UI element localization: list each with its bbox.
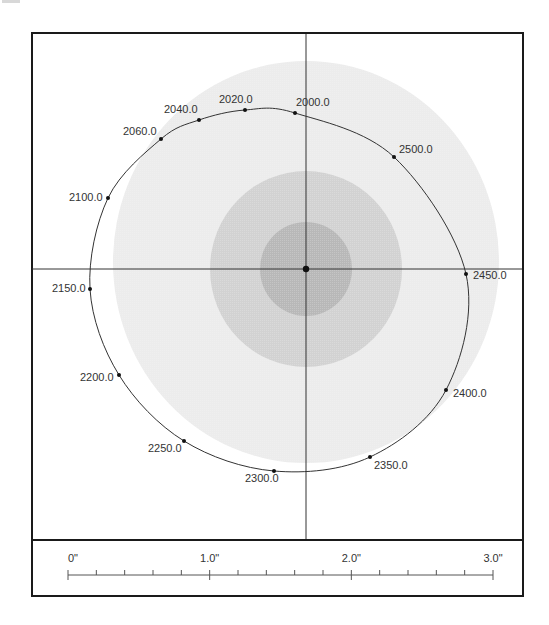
depth-marker-dot [159, 137, 163, 141]
depth-label: 2200.0 [80, 371, 114, 383]
depth-label: 2040.0 [164, 103, 198, 115]
depth-label: 2400.0 [453, 387, 487, 399]
traveling-cylinder-chart: 2000.02020.02040.02060.02100.02150.02200… [0, 0, 549, 625]
depth-label: 2060.0 [123, 125, 157, 137]
depth-label: 2020.0 [219, 93, 253, 105]
reference-well-center-dot [303, 266, 309, 272]
scale-frame [32, 540, 523, 596]
depth-marker-dot [88, 287, 92, 291]
scale-label: 2.0" [342, 552, 361, 564]
depth-marker: 2250.0 [148, 439, 186, 454]
depth-marker-dot [368, 455, 372, 459]
depth-marker: 2300.0 [245, 469, 279, 484]
scale-label: 3.0" [483, 552, 502, 564]
depth-marker-dot [464, 272, 468, 276]
depth-marker-dot [293, 111, 297, 115]
scale-label: 1.0" [200, 552, 219, 564]
depth-label: 2150.0 [52, 282, 86, 294]
depth-label: 2450.0 [473, 269, 507, 281]
depth-marker-dot [392, 155, 396, 159]
depth-label: 2350.0 [374, 459, 408, 471]
depth-label: 2250.0 [148, 442, 182, 454]
scale-label: 0" [68, 552, 78, 564]
depth-label: 2300.0 [245, 472, 279, 484]
depth-label: 2000.0 [296, 96, 330, 108]
depth-label: 2100.0 [69, 191, 103, 203]
depth-marker-dot [106, 196, 110, 200]
depth-marker-dot [444, 388, 448, 392]
depth-marker-dot [197, 118, 201, 122]
depth-marker-dot [243, 108, 247, 112]
depth-marker-dot [117, 373, 121, 377]
depth-label: 2500.0 [399, 143, 433, 155]
depth-marker-dot [182, 439, 186, 443]
